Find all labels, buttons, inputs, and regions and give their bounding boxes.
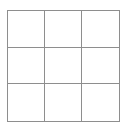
grid-cell-1-1[interactable] (45, 48, 82, 85)
grid-cell-2-2[interactable] (82, 84, 119, 121)
grid-cell-1-0[interactable] (8, 48, 45, 85)
grid-cell-0-0[interactable] (8, 11, 45, 48)
grid-cell-2-1[interactable] (45, 84, 82, 121)
grid-cell-1-2[interactable] (82, 48, 119, 85)
tic-tac-toe-board (7, 10, 120, 122)
grid-cell-0-2[interactable] (82, 11, 119, 48)
grid-cell-0-1[interactable] (45, 11, 82, 48)
grid-cell-2-0[interactable] (8, 84, 45, 121)
page-canvas (0, 0, 129, 132)
